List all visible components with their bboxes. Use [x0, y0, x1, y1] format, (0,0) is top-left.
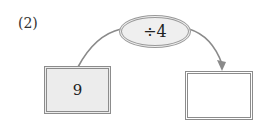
answer-box[interactable]	[185, 71, 253, 120]
operation-bubble: ÷4	[119, 15, 191, 48]
arrowhead-icon	[217, 60, 226, 71]
diagram-canvas: (2) ÷4 9	[0, 0, 270, 127]
outgoing-arc	[189, 29, 222, 64]
incoming-arc	[78, 29, 121, 67]
input-box: 9	[44, 66, 111, 114]
